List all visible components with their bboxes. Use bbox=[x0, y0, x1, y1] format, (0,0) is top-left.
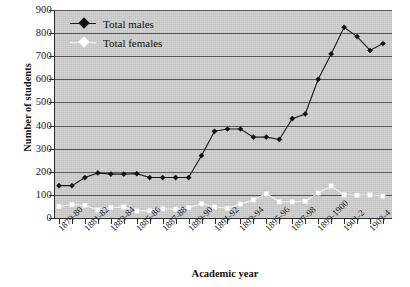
data-point-females-1900-01 bbox=[329, 184, 334, 189]
data-point-males-1896-97 bbox=[277, 137, 282, 142]
data-point-females-1903-4 bbox=[368, 193, 373, 198]
data-point-males-1886-87 bbox=[147, 175, 152, 180]
y-tick-mark-400 bbox=[49, 126, 54, 127]
legend-item-total-males: Total males bbox=[70, 14, 162, 33]
data-point-females-1894-95 bbox=[251, 198, 256, 203]
data-point-males-1900-01 bbox=[329, 51, 334, 56]
data-point-females-1902-3 bbox=[355, 193, 360, 198]
x-tick-mark-1884-85 bbox=[124, 219, 125, 224]
data-point-males-1892-93 bbox=[225, 126, 230, 131]
data-point-females-1896-97 bbox=[277, 200, 282, 205]
data-point-females-1898-99 bbox=[303, 199, 308, 204]
data-point-females-1897-98 bbox=[290, 200, 295, 205]
data-point-females-1890-91 bbox=[199, 201, 204, 206]
data-point-males-1880-81 bbox=[69, 183, 74, 188]
data-point-males-1897-98 bbox=[290, 116, 295, 121]
data-point-males-1895-96 bbox=[264, 135, 269, 140]
data-point-females-1895-96 bbox=[264, 191, 269, 196]
data-point-males-1885-86 bbox=[134, 171, 139, 176]
y-tick-mark-800 bbox=[49, 33, 54, 34]
x-tick-mark-1896-97 bbox=[279, 219, 280, 224]
x-tick-mark-1888-89 bbox=[176, 219, 177, 224]
data-point-males-1883-84 bbox=[108, 171, 113, 176]
data-point-males-1881-82 bbox=[82, 175, 87, 180]
chart-legend: Total males Total females bbox=[70, 14, 162, 52]
y-tick-mark-300 bbox=[49, 149, 54, 150]
x-tick-mark-1894-95 bbox=[253, 219, 254, 224]
data-point-females-1904-5 bbox=[381, 194, 386, 199]
data-point-males-1898-99 bbox=[303, 111, 308, 116]
y-tick-label-900: 900 bbox=[12, 5, 52, 16]
data-point-females-1899-1900 bbox=[316, 191, 321, 196]
y-tick-mark-600 bbox=[49, 79, 54, 80]
y-tick-mark-700 bbox=[49, 56, 54, 57]
y-tick-mark-900 bbox=[49, 10, 54, 11]
y-axis-line bbox=[54, 10, 55, 218]
x-tick-mark-1892-93 bbox=[227, 219, 228, 224]
x-tick-mark-1880-81 bbox=[72, 219, 73, 224]
data-point-males-1882-83 bbox=[95, 170, 100, 175]
data-point-males-1899-1900 bbox=[316, 77, 321, 82]
x-tick-mark-1904-5 bbox=[383, 219, 384, 224]
x-tick-mark-1886-87 bbox=[150, 219, 151, 224]
data-point-females-1879-80 bbox=[57, 204, 62, 209]
data-point-males-1904-5 bbox=[380, 41, 385, 46]
data-point-males-1887-88 bbox=[160, 175, 165, 180]
legend-marker-females-icon bbox=[70, 37, 96, 49]
legend-item-total-females: Total females bbox=[70, 33, 162, 52]
data-point-males-1888-89 bbox=[173, 175, 178, 180]
data-point-females-1893-94 bbox=[238, 202, 243, 207]
data-point-males-1890-91 bbox=[199, 153, 204, 158]
y-tick-mark-0 bbox=[49, 218, 54, 219]
y-tick-mark-200 bbox=[49, 172, 54, 173]
x-tick-mark-1882-83 bbox=[98, 219, 99, 224]
legend-label-females: Total females bbox=[103, 37, 162, 49]
data-point-females-1880-81 bbox=[70, 202, 75, 207]
data-point-males-1889-90 bbox=[186, 175, 191, 180]
x-axis-title: Academic year bbox=[0, 268, 410, 279]
data-point-males-1891-92 bbox=[212, 129, 217, 134]
legend-label-males: Total males bbox=[103, 18, 154, 30]
x-tick-mark-1890-91 bbox=[202, 219, 203, 224]
data-point-males-1884-85 bbox=[121, 171, 126, 176]
x-tick-mark-1898-99 bbox=[305, 219, 306, 224]
data-point-females-1881-82 bbox=[83, 203, 88, 208]
data-point-males-1893-94 bbox=[238, 126, 243, 131]
data-point-males-1894-95 bbox=[251, 135, 256, 140]
x-tick-mark-1902-3 bbox=[357, 219, 358, 224]
data-point-males-1879-80 bbox=[56, 183, 61, 188]
data-point-females-1901-2 bbox=[342, 193, 347, 198]
y-axis-title: Number of students bbox=[22, 23, 33, 193]
x-tick-mark-1900-01 bbox=[331, 219, 332, 224]
legend-marker-males-icon bbox=[70, 18, 96, 30]
y-tick-mark-100 bbox=[49, 195, 54, 196]
y-tick-mark-500 bbox=[49, 102, 54, 103]
y-tick-label-0: 0 bbox=[12, 213, 52, 224]
chart-container: 9008007006005004003002001000 1879-801881… bbox=[0, 0, 410, 287]
